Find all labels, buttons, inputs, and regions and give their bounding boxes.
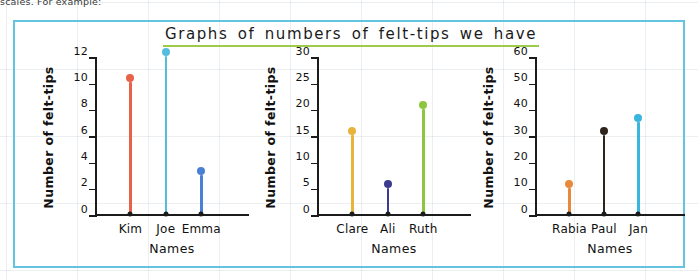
chart-3-y-tick-label: 0 [521,202,528,215]
chart-3-y-tick-label: 10 [513,176,528,189]
chart-1-base-point [163,212,168,217]
chart-1-category-label: Joe [156,222,175,236]
chart-2-marker-clare [348,127,356,135]
chart-1-x-axis-label: Names [95,241,249,256]
chart-1-y-tick-label: 12 [73,44,88,57]
chart-1-category-labels: KimJoeEmma [95,222,249,238]
chart-2-y-tick-label: 10 [295,149,310,162]
chart-1-y-tick-label: 6 [81,123,88,136]
chart-3-y-tick [529,84,537,86]
chart-2-y-tick-label: 15 [295,123,310,136]
chart-1-y-tick [89,57,97,59]
chart-2-category-labels: ClareAliRuth [317,222,471,238]
chart-2-category-label: Clare [336,222,368,236]
chart-3-category-label: Paul [591,222,617,236]
chart-2-y-tick [311,189,319,191]
chart-3-stem-rabia [568,188,571,214]
chart-1-y-tick-label: 0 [81,202,88,215]
chart-1-y-tick-label: 10 [73,70,88,83]
chart-1-y-tick-label: 2 [81,176,88,189]
chart-1-marker-kim [126,74,134,82]
chart-3-y-tick-label: 40 [513,97,528,110]
chart-2-x-axis-label: Names [317,241,471,256]
chart-1-y-tick [89,110,97,112]
chart-3-y-tick-label: 20 [513,149,528,162]
chart-3-y-axis-label: Number of felt-tips [479,58,497,216]
chart-1-category-label: Emma [182,222,221,236]
chart-2-y-tick-label: 30 [295,44,310,57]
chart-2-stem-ruth [422,109,425,214]
chart-3-base-point [601,212,606,217]
chart-2-base-point [421,212,426,217]
chart-3-x-axis-label: Names [535,241,685,256]
chart-3-category-labels: RabiaPaulJan [535,222,685,238]
chart-3-stem-jan [637,122,640,214]
chart-1-y-tick [89,136,97,138]
chart-3-y-tick-label: 50 [513,70,528,83]
chart-1-marker-joe [162,48,170,56]
chart-2-x-axis [317,214,471,216]
chart-2-y-tick [311,136,319,138]
chart-3-y-tick [529,189,537,191]
chart-3-y-tick [529,136,537,138]
worksheet-frame: Graphs of numbers of felt-tips we have N… [13,20,685,268]
chart-3-base-point [567,212,572,217]
chart-2-y-tick-label: 20 [295,97,310,110]
chart-3-y-tick [529,57,537,59]
chart-2-y-tick-label: 0 [303,202,310,215]
chart-3-marker-paul [600,127,608,135]
chart-2-base-point [385,212,390,217]
chart-panel-1: Number of felt-tips 024681012 KimJoeEmma… [37,52,255,264]
chart-2-category-label: Ali [380,222,395,236]
chart-3-y-tick [529,215,537,217]
chart-2-marker-ruth [419,101,427,109]
chart-3-base-point [636,212,641,217]
chart-2-stem-clare [351,135,354,214]
chart-1-plot-area: 024681012 [95,58,249,216]
chart-1-base-point [128,212,133,217]
chart-1-y-tick-label: 4 [81,149,88,162]
chart-1-x-axis [95,214,249,216]
chart-2-marker-ali [384,180,392,188]
chart-1-stem-joe [165,56,168,214]
chart-3-category-label: Rabia [552,222,587,236]
chart-panel-2: Number of felt-tips 051015202530 ClareAl… [259,52,477,264]
chart-2-y-tick [311,57,319,59]
cut-off-caption: scales. For example: [0,0,260,10]
chart-2-y-tick [311,163,319,165]
chart-1-y-axis-label: Number of felt-tips [39,58,57,216]
title-container: Graphs of numbers of felt-tips we have [15,24,687,47]
chart-3-stem-paul [603,135,606,214]
chart-2-y-tick [311,215,319,217]
chart-1-y-tick [89,215,97,217]
chart-2-category-label: Ruth [409,222,438,236]
chart-1-stem-emma [200,175,203,215]
chart-panel-3: Number of felt-tips 0102030405060 RabiaP… [477,52,691,264]
chart-2-y-tick [311,84,319,86]
chart-1-category-label: Kim [119,222,143,236]
chart-1-base-point [199,212,204,217]
chart-3-x-axis [535,214,685,216]
chart-1-y-tick [89,189,97,191]
chart-2-y-tick [311,110,319,112]
chart-2-y-axis-label: Number of felt-tips [261,58,279,216]
chart-2-base-point [350,212,355,217]
chart-3-y-tick [529,110,537,112]
chart-3-marker-rabia [565,180,573,188]
chart-3-plot-area: 0102030405060 [535,58,685,216]
chart-2-y-tick-label: 5 [303,176,310,189]
chart-3-y-tick-label: 30 [513,123,528,136]
chart-3-category-label: Jan [629,222,648,236]
chart-3-y-tick [529,163,537,165]
chart-3-marker-jan [634,114,642,122]
chart-1-y-tick [89,163,97,165]
chart-1-y-tick [89,84,97,86]
chart-1-y-tick-label: 8 [81,97,88,110]
chart-2-y-tick-label: 25 [295,70,310,83]
chart-1-stem-kim [129,82,132,214]
chart-3-y-tick-label: 60 [513,44,528,57]
chart-2-plot-area: 051015202530 [317,58,471,216]
page-title: Graphs of numbers of felt-tips we have [163,25,539,47]
chart-1-marker-emma [197,167,205,175]
chart-2-stem-ali [387,188,390,214]
